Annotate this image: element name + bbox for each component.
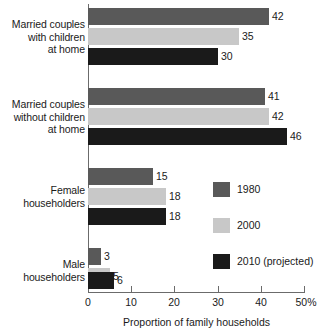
bar-female-householders-2010 (88, 208, 166, 225)
x-axis-title: Proportion of family households (88, 316, 305, 328)
x-axis-tick-label-50: 50% (295, 296, 316, 309)
category-label-line: Male (23, 258, 85, 271)
category-label-female-householders: Female householders (23, 184, 85, 209)
category-label-line: Married couples (12, 18, 85, 31)
x-axis-tick-20 (174, 286, 175, 292)
legend-swatch-icon (213, 218, 230, 233)
category-label-line: householders (23, 271, 85, 284)
bar-married-with-children-1980 (88, 8, 269, 25)
category-label-male-householders: Male householders (23, 258, 85, 283)
bar-male-householders-1980 (88, 248, 101, 265)
category-label-married-with-children: Married couples with children at home (12, 18, 85, 56)
category-label-line: at home (12, 123, 85, 136)
bar-chart: 0 10 20 30 40 50% Proportion of family h… (0, 0, 318, 335)
bar-value-female-householders-2000: 18 (169, 188, 181, 205)
category-label-line: Female (23, 184, 85, 197)
category-label-line: with children (12, 31, 85, 44)
bar-value-married-with-children-1980: 42 (272, 8, 284, 25)
bar-married-without-children-2010 (88, 128, 287, 145)
bar-male-householders-2010 (88, 272, 114, 289)
x-axis-tick-label-10: 10 (125, 296, 137, 309)
bar-value-married-without-children-2010: 46 (290, 128, 302, 145)
bar-value-married-with-children-2000: 35 (242, 28, 254, 45)
bar-value-male-householders-2010: 6 (117, 272, 123, 289)
legend-label: 2010 (projected) (237, 254, 313, 269)
bar-value-married-with-children-2010: 30 (221, 48, 233, 65)
x-axis-tick-label-20: 20 (168, 296, 180, 309)
category-label-line: at home (12, 43, 85, 56)
bar-female-householders-1980 (88, 168, 153, 185)
legend-label: 1980 (237, 182, 260, 197)
bar-value-female-householders-1980: 15 (156, 168, 168, 185)
bar-married-with-children-2000 (88, 28, 239, 45)
bar-value-male-householders-1980: 3 (104, 248, 110, 265)
plot-area: 0 10 20 30 40 50% Proportion of family h… (0, 0, 318, 335)
bar-value-married-without-children-1980: 41 (268, 88, 280, 105)
legend-label: 2000 (237, 218, 260, 233)
category-label-line: householders (23, 197, 85, 210)
bar-married-without-children-2000 (88, 108, 269, 125)
x-axis-tick-40 (261, 286, 262, 292)
x-axis-tick-label-30: 30 (212, 296, 224, 309)
x-axis-line (88, 292, 305, 293)
bar-female-householders-2000 (88, 188, 166, 205)
x-axis-tick-label-40: 40 (255, 296, 267, 309)
category-label-line: without children (12, 111, 85, 124)
category-label-married-without-children: Married couples without children at home (12, 98, 85, 136)
bar-married-with-children-2010 (88, 48, 218, 65)
x-axis-tick-50 (304, 286, 305, 292)
bar-value-female-householders-2010: 18 (169, 208, 181, 225)
category-label-line: Married couples (12, 98, 85, 111)
bar-married-without-children-1980 (88, 88, 265, 105)
x-axis-tick-label-0: 0 (85, 296, 91, 309)
legend-swatch-icon (213, 254, 230, 269)
bar-value-married-without-children-2000: 42 (272, 108, 284, 125)
legend-swatch-icon (213, 182, 230, 197)
x-axis-tick-30 (218, 286, 219, 292)
x-axis-tick-10 (131, 286, 132, 292)
